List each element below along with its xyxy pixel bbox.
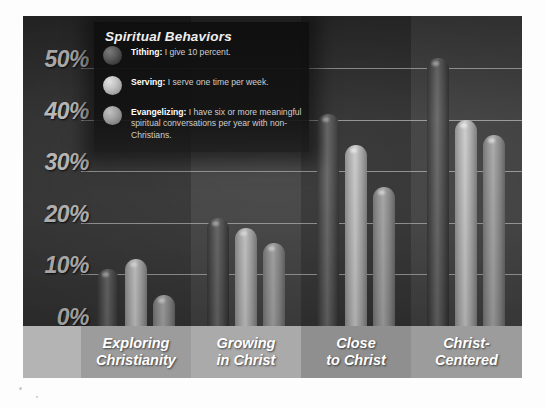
legend-item-label: Tithing: I give 10 percent. [131, 47, 303, 58]
y-axis-tick-20: 20% [27, 203, 89, 226]
bar-chart: 50%40%30%20%10%0% Spiritual Behaviors Ti… [23, 16, 522, 378]
category-label-1: Growingin Christ [191, 326, 301, 378]
category-label-text: Christ-Centered [435, 335, 498, 369]
bar-highlight-icon [268, 246, 275, 251]
bar-highlight-icon [432, 61, 439, 66]
legend-item-label: Serving: I serve one time per week. [131, 77, 303, 88]
y-axis-tick-50: 50% [27, 48, 89, 71]
legend-box: Spiritual Behaviors Tithing: I give 10 p… [94, 22, 309, 152]
category-label-3: Christ-Centered [411, 326, 522, 378]
bar-highlight-icon [378, 190, 385, 195]
bar-serving-3 [455, 120, 477, 326]
category-axis: ExploringChristianity Growingin Christ C… [23, 326, 522, 378]
category-label-text: ExploringChristianity [96, 335, 176, 369]
sphere-dark-icon [103, 46, 122, 65]
category-label-text: Growingin Christ [217, 335, 276, 369]
bar-highlight-icon [460, 123, 467, 128]
y-axis-tick-10: 10% [27, 254, 89, 277]
bar-serving-0 [125, 259, 147, 326]
category-label-text: Closeto Christ [326, 335, 386, 369]
page-speck-1 [19, 387, 22, 390]
bar-highlight-icon [322, 117, 329, 122]
bar-highlight-icon [158, 298, 165, 303]
bar-highlight-icon [130, 262, 137, 267]
sphere-light-icon [103, 76, 122, 95]
page-speck-2 [36, 396, 38, 398]
bar-tithing-1 [207, 218, 229, 326]
sphere-mid-icon [103, 106, 122, 125]
bar-evangelizing-2 [373, 187, 395, 326]
category-label-0: ExploringChristianity [81, 326, 191, 378]
y-axis-tick-40: 40% [27, 100, 89, 123]
bar-highlight-icon [240, 231, 247, 236]
bar-serving-1 [235, 228, 257, 326]
bar-highlight-icon [212, 221, 219, 226]
bar-evangelizing-0 [153, 295, 175, 326]
legend-title: Spiritual Behaviors [105, 29, 232, 44]
footer-spacer [23, 326, 81, 378]
bar-highlight-icon [102, 272, 109, 277]
y-axis-tick-30: 30% [27, 151, 89, 174]
legend-item-label: Evangelizing: I have six or more meaning… [131, 107, 303, 141]
category-label-2: Closeto Christ [301, 326, 411, 378]
bar-highlight-icon [350, 148, 357, 153]
bar-evangelizing-1 [263, 243, 285, 326]
bar-serving-2 [345, 145, 367, 326]
bar-tithing-0 [97, 269, 119, 326]
bar-tithing-3 [427, 58, 449, 326]
bar-evangelizing-3 [483, 135, 505, 326]
chart-page: 50%40%30%20%10%0% Spiritual Behaviors Ti… [0, 0, 545, 408]
bar-highlight-icon [488, 138, 495, 143]
bar-tithing-2 [317, 114, 339, 326]
